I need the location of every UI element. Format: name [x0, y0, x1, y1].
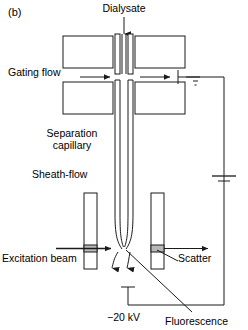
- separation-capillary: [115, 80, 133, 214]
- cuvette-left-wall: [84, 193, 97, 269]
- label-excitation-beam: Excitation beam: [2, 252, 77, 264]
- hv-electrode-stub: [121, 287, 135, 305]
- label-dialysate: Dialysate: [78, 2, 170, 14]
- cuvette-right-wall: [151, 193, 164, 269]
- panel-label: (b): [8, 6, 21, 18]
- capillary-tapered-tip: [115, 214, 133, 249]
- label-sheath-flow: Sheath-flow: [32, 168, 87, 180]
- interface-upper-blocks: [63, 36, 185, 68]
- label-fluorescence: Fluorescence: [165, 315, 228, 327]
- figure-panel-b: (b) Dialysate Gating flow Separation cap…: [0, 0, 248, 330]
- label-separation-capillary-line1: Separation: [47, 127, 98, 139]
- schematic-drawing: [0, 0, 248, 330]
- label-scatter: Scatter: [178, 252, 211, 264]
- label-gating-flow: Gating flow: [8, 66, 61, 78]
- label-voltage: −20 kV: [107, 311, 140, 323]
- label-separation-capillary-line2: capillary: [53, 139, 92, 151]
- sheath-stream-arrows: [112, 252, 130, 268]
- label-separation-capillary: Separation capillary: [36, 127, 108, 151]
- dialysis-capillary-upper: [115, 34, 133, 74]
- interface-lower-blocks: [63, 82, 185, 114]
